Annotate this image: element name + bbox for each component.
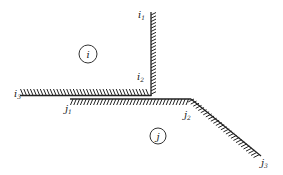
hatch-mark xyxy=(151,36,156,39)
hatch-mark xyxy=(151,19,156,22)
hatch-mark xyxy=(77,89,80,95)
hatch-mark xyxy=(186,99,189,105)
contact-diagram: i j i1 i2 i3 j1 j2 j3 xyxy=(0,0,283,175)
hatch-mark xyxy=(94,99,97,105)
hatch-mark xyxy=(100,99,103,105)
hatch-mark xyxy=(151,29,156,32)
hatch-mark xyxy=(151,39,156,42)
label-i2: i2 xyxy=(137,71,144,83)
hatch-mark xyxy=(163,99,166,105)
hatch-mark xyxy=(146,99,149,105)
label-j2: j2 xyxy=(182,109,191,121)
hatch-mark xyxy=(151,85,156,88)
hatch-mark xyxy=(249,150,255,153)
hatch-mark xyxy=(151,88,156,91)
hatch-mark xyxy=(117,99,120,105)
hatch-mark xyxy=(90,99,93,105)
hatch-mark xyxy=(151,49,156,52)
hatch-mark xyxy=(160,99,163,105)
label-i1: i1 xyxy=(138,9,145,21)
hatch-mark xyxy=(107,99,110,105)
hatch-mark xyxy=(151,65,156,68)
hatch-mark xyxy=(27,89,30,95)
hatch-mark xyxy=(151,32,156,35)
hatch-mark xyxy=(143,99,146,105)
hatch-mark xyxy=(136,89,139,95)
boundary-j-diagonal xyxy=(191,99,261,156)
hatch-mark xyxy=(110,99,113,105)
hatch-mark xyxy=(133,89,136,95)
hatch-mark xyxy=(183,99,186,105)
hatch-mark xyxy=(116,89,119,95)
hatch-mark xyxy=(96,89,99,95)
hatch-mark xyxy=(156,99,159,105)
hatch-mark xyxy=(140,99,143,105)
label-i3: i3 xyxy=(14,88,21,100)
hatch-mark xyxy=(151,16,156,18)
hatch-mark xyxy=(133,99,136,105)
hatch-mark xyxy=(173,99,176,105)
hatch-mark xyxy=(37,89,40,95)
hatch-mark xyxy=(54,89,57,95)
hatch-mark xyxy=(74,99,77,105)
hatch-mark xyxy=(254,155,260,158)
hatch-mark xyxy=(40,89,43,95)
hatch-mark xyxy=(126,89,129,95)
hatch-mark xyxy=(80,99,83,105)
hatch-mark xyxy=(251,152,257,155)
hatch-mark xyxy=(47,89,50,95)
region-i-label: i xyxy=(86,49,89,60)
hatch-mark xyxy=(151,46,156,49)
region-i-marker: i xyxy=(79,45,97,63)
hatch-mark xyxy=(90,89,93,95)
hatch-mark xyxy=(151,55,156,58)
hatch-mark xyxy=(146,89,149,95)
hatch-mark xyxy=(153,99,156,105)
hatch-mark xyxy=(113,89,116,95)
hatch-mark xyxy=(130,99,133,105)
region-j-label: j xyxy=(154,131,159,142)
hatch-mark xyxy=(77,99,80,105)
hatch-mark xyxy=(106,89,109,95)
hatch-mark xyxy=(137,99,140,105)
hatch-mark xyxy=(151,52,156,55)
hatch-mark xyxy=(103,89,106,95)
hatch-mark xyxy=(151,13,156,16)
hatch-mark xyxy=(151,75,156,78)
hatch-mark xyxy=(100,89,103,95)
hatch-mark xyxy=(24,89,27,95)
hatch-mark xyxy=(179,99,182,105)
hatch-mark xyxy=(151,82,156,85)
hatch-mark xyxy=(166,99,169,105)
hatch-mark xyxy=(143,89,146,95)
hatch-mark xyxy=(87,99,90,105)
hatch-mark xyxy=(87,89,90,95)
hatch-mark xyxy=(151,92,156,95)
hatch-mark xyxy=(176,99,179,105)
diagram-canvas: i j i1 i2 i3 j1 j2 j3 xyxy=(0,0,283,175)
hatch-mark xyxy=(63,89,66,95)
hatch-mark xyxy=(151,62,156,65)
hatch-mark xyxy=(139,89,142,95)
hatch-mark xyxy=(50,89,53,95)
hatch-mark xyxy=(151,72,156,75)
hatch-mark xyxy=(71,99,74,105)
hatch-mark xyxy=(44,89,47,95)
hatch-mark xyxy=(150,99,153,105)
hatch-mark xyxy=(67,89,70,95)
hatch-mark xyxy=(84,99,87,105)
hatch-mark xyxy=(151,59,156,62)
hatch-mark xyxy=(104,99,107,105)
hatch-mark xyxy=(110,89,113,95)
hatch-mark xyxy=(73,89,76,95)
hatch-mark xyxy=(93,89,96,95)
hatch-mark xyxy=(30,89,33,95)
hatch-mark xyxy=(127,99,130,105)
hatch-mark xyxy=(83,89,86,95)
label-j3: j3 xyxy=(259,157,268,169)
hatch-mark xyxy=(151,79,156,82)
hatch-mark xyxy=(120,89,123,95)
region-j-marker: j xyxy=(150,128,166,144)
hatch-mark xyxy=(151,42,156,45)
hatch-mark xyxy=(151,22,156,25)
